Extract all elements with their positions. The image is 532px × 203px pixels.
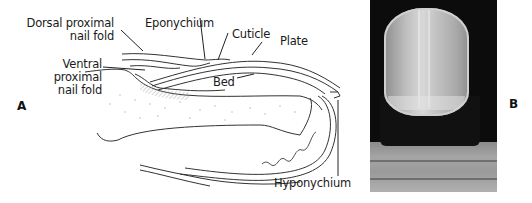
nail-ridge: [428, 10, 430, 108]
label-eponychium: Eponychium: [145, 17, 214, 30]
label-plate: Plate: [280, 35, 308, 48]
label-dorsal-proximal-nail-fold: Dorsal proximal nail fold: [6, 17, 114, 43]
label-cuticle: Cuticle: [232, 28, 270, 41]
label-hyponychium: Hyponychium: [274, 177, 351, 190]
panel-letter-b: B: [509, 97, 518, 111]
finger-skin: [370, 142, 497, 192]
bone-marrow-speckles: [109, 94, 296, 121]
label-line: nail fold: [20, 84, 102, 97]
panel-letter-a: A: [17, 99, 26, 113]
skin-crease: [370, 160, 497, 162]
lunula: [388, 96, 465, 110]
fingernail-photograph: [370, 0, 497, 192]
nail-anatomy-figure: Dorsal proximal nail fold Eponychium Cut…: [0, 0, 532, 203]
label-ventral-proximal-nail-fold: Ventral proximal nail fold: [20, 58, 102, 97]
skin-crease: [370, 178, 497, 180]
label-line: nail fold: [6, 30, 114, 43]
nail-ridge: [418, 10, 420, 108]
label-bed: Bed: [213, 76, 235, 89]
